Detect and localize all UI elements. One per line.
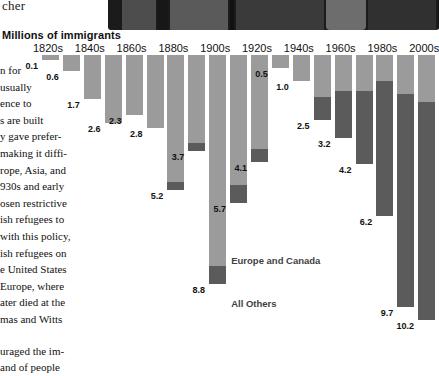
bar-value-1960s: 3.2: [318, 139, 331, 149]
bar-value-1850s: 2.6: [88, 124, 101, 134]
bar-1940s: [293, 55, 310, 81]
paragraph-gap: [0, 328, 78, 343]
bar-segment-all-others: [418, 102, 435, 320]
bar-value-1970s: 4.2: [339, 165, 352, 175]
bar-segment-europe-canada: [397, 55, 414, 94]
decade-label-1920s: 1920s: [242, 42, 272, 54]
bar-value-1980s: 6.2: [360, 217, 373, 227]
bar-segment-all-others: [314, 97, 331, 120]
decade-label-1940s: 1940s: [284, 42, 314, 54]
decade-label-1960s: 1960s: [326, 42, 356, 54]
body-line: rope, Asia, and: [0, 162, 78, 179]
bar-segment-europe-canada: [418, 55, 435, 102]
bar-1910s: [230, 55, 247, 203]
bar-1870s: [147, 55, 164, 128]
body-line: making it diffi-: [0, 145, 78, 162]
decade-label-1980s: 1980s: [367, 42, 397, 54]
body-line: mas and Witts: [0, 311, 78, 328]
photo-pane: [158, 0, 168, 30]
bar-segment-europe-canada: [314, 55, 331, 97]
bar-segment-europe-canada: [335, 55, 352, 91]
photo-pane: [236, 0, 324, 30]
bar-segment-europe-canada: [42, 55, 59, 60]
bar-value-1860s: 2.3: [109, 116, 122, 126]
bar-1820s: [42, 55, 59, 60]
bar-segment-all-others: [209, 266, 226, 284]
bar-1980s: [376, 55, 393, 216]
bar-segment-europe-canada: [147, 55, 164, 128]
top-photo-strip: cher: [0, 0, 439, 30]
dark-architectural-photo: [108, 0, 439, 30]
decade-label-2000s: 2000s: [409, 42, 439, 54]
bar-value-1890s: 3.7: [172, 152, 185, 162]
bar-value-1920s: 4.1: [234, 163, 247, 173]
bar-1890s: [188, 55, 205, 151]
bar-value-1900s: 8.8: [193, 285, 206, 295]
body-line: Europe, where: [0, 278, 78, 295]
body-line: usually: [0, 79, 78, 96]
body-line: ish refugees to: [0, 211, 78, 228]
photo-pane: [122, 0, 156, 30]
bar-value-1870s: 2.8: [130, 129, 143, 139]
body-line: s are built: [0, 112, 78, 129]
photo-pane: [326, 0, 366, 30]
body-line: with this policy,: [0, 228, 78, 245]
bar-1840s: [84, 55, 101, 99]
bar-segment-europe-canada: [105, 55, 122, 123]
bar-1930s: [272, 55, 289, 68]
decade-label-1840s: 1840s: [75, 42, 105, 54]
bar-value-1950s: 2.5: [297, 121, 310, 131]
decade-label-1880s: 1880s: [158, 42, 188, 54]
bar-value-1940s: 1.0: [276, 82, 289, 92]
decade-label-1820s: 1820s: [33, 42, 63, 54]
bar-segment-all-others: [167, 182, 184, 190]
decade-axis: 1820s1840s1860s1880s1900s1920s1940s1960s…: [0, 42, 439, 55]
legend-label-europe_canada: Europe and Canada: [231, 255, 320, 266]
bar-1850s: [105, 55, 122, 123]
bar-1970s: [356, 55, 373, 164]
bar-segment-europe-canada: [167, 55, 184, 182]
bar-segment-all-others: [188, 143, 205, 151]
bar-2000s: [418, 55, 435, 320]
bar-segment-all-others: [397, 94, 414, 307]
bar-1860s: [126, 55, 143, 115]
bar-1950s: [314, 55, 331, 120]
legend-label-all_others: All Others: [231, 298, 276, 309]
bar-value-2000s: 10.2: [396, 321, 414, 331]
bar-segment-europe-canada: [272, 55, 289, 68]
bar-segment-all-others: [251, 149, 268, 162]
photo-caption-partial: cher: [2, 0, 25, 14]
bar-segment-europe-canada: [376, 55, 393, 81]
bar-segment-all-others: [356, 91, 373, 164]
body-line: n for: [0, 62, 78, 79]
bar-value-1990s: 9.7: [381, 308, 394, 318]
body-line: uraged the im-: [0, 343, 78, 360]
body-line: e United States: [0, 261, 78, 278]
decade-label-1860s: 1860s: [117, 42, 147, 54]
body-line: ence to: [0, 95, 78, 112]
bar-segment-all-others: [335, 91, 352, 138]
bar-1990s: [397, 55, 414, 307]
photo-pane: [230, 0, 234, 30]
photo-pane: [170, 0, 228, 30]
bar-value-1880s: 5.2: [151, 191, 164, 201]
body-line: y gave prefer-: [0, 128, 78, 145]
bar-segment-europe-canada: [84, 55, 101, 99]
body-line: ish refugees on: [0, 245, 78, 262]
body-line: 930s and early: [0, 178, 78, 195]
chart-title: Millions of immigrants: [2, 29, 121, 41]
body-line: and of people: [0, 359, 78, 376]
bar-segment-europe-canada: [126, 55, 143, 115]
bar-segment-europe-canada: [293, 55, 310, 81]
bar-1900s: [209, 55, 226, 284]
body-line: osen restrictive: [0, 195, 78, 212]
decade-label-1900s: 1900s: [200, 42, 230, 54]
bar-1960s: [335, 55, 352, 138]
photo-pane: [368, 0, 436, 30]
bar-segment-europe-canada: [356, 55, 373, 91]
bar-segment-europe-canada: [188, 55, 205, 143]
bar-1880s: [167, 55, 184, 190]
body-line: ater died at the: [0, 294, 78, 311]
bar-segment-all-others: [376, 81, 393, 216]
